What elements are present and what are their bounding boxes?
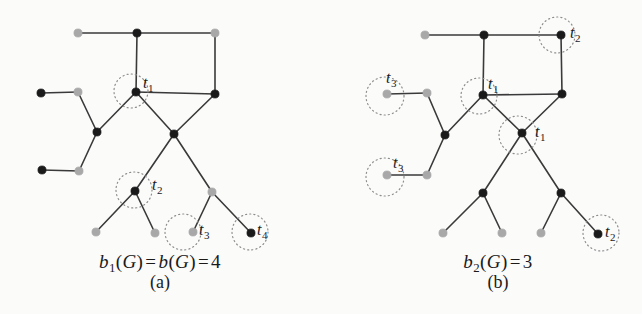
marker-label-sub: 1 [148,82,154,94]
marker-label-b-t3b: t3 [393,154,404,174]
graph-node-b-t3b [383,171,391,179]
graph-node-a-n8 [93,128,101,136]
graph-node-b-n5 [423,89,431,97]
graph-edge [79,132,97,171]
graph-edge [41,92,78,93]
panel-a-marker-labels: t1t2t3t4 [143,74,268,241]
graph-edge [135,191,155,233]
graph-edge [97,92,136,132]
marker-label-sub: 2 [575,32,581,44]
panel-b-edges [387,35,598,234]
graph-node-a-n13 [208,188,216,196]
graph-node-b-n14 [439,229,447,237]
graph-node-b-n15 [498,229,506,237]
marker-label-sub: 2 [157,184,163,196]
graph-edge [174,94,215,134]
panel-a-edges [41,33,251,233]
marker-label-a-t3: t3 [199,221,210,241]
graph-edge [136,92,174,134]
panel-a-nodes [37,29,255,237]
graph-edge [483,133,522,193]
graph-node-a-n10 [38,166,46,174]
graph-edge [212,192,251,233]
graph-edge [561,35,562,94]
marker-label-sub: 3 [391,77,397,89]
graph-node-b-n8 [441,131,449,139]
graph-edge [561,193,598,234]
graph-node-b-n1 [421,31,429,39]
marker-label-a-t4: t4 [257,221,268,241]
graph-edge [483,193,502,233]
graph-edge [96,191,135,232]
marker-label-b-t2a: t2 [570,24,580,44]
panel-b-nodes [383,31,602,238]
graph-node-a-t2 [131,187,139,195]
panel-b-marker-labels: t2t3t1t1t3t2 [386,24,615,243]
graph-edge [136,33,137,92]
graph-node-b-n7 [558,90,566,98]
panel-a-group: t1t2t3t4 [37,29,268,250]
graph-node-b-n2 [480,31,488,39]
graph-node-a-n7 [211,90,219,98]
marker-label-a-t2: t2 [152,176,162,196]
marker-label-sub: 4 [262,229,268,241]
marker-label-a-t1: t1 [143,74,153,94]
graph-edge [443,193,483,233]
panel-b-group: t2t3t1t1t3t2 [366,17,619,251]
graph-node-a-n4 [37,89,45,97]
graph-edge [387,93,427,94]
graph-edge [483,35,484,95]
marker-label-b-t1b: t1 [535,123,545,143]
graph-node-a-n3 [211,29,219,37]
graph-edge [541,193,561,233]
marker-label-sub: 2 [610,231,616,243]
marker-label-b-t1a: t1 [488,75,498,95]
graph-edge [42,170,79,171]
graph-edge [427,135,445,175]
graph-node-a-t1 [132,88,140,96]
marker-label-sub: 3 [204,229,210,241]
graph-node-b-n11 [423,171,431,179]
graph-node-a-n11 [75,167,83,175]
graph-node-a-t3 [189,228,197,236]
marker-label-sub: 1 [540,131,546,143]
panel-a-markers [114,74,268,250]
marker-label-sub: 3 [398,162,404,174]
graph-node-b-t2b [594,230,602,238]
graph-node-a-t4 [247,229,255,237]
marker-label-sub: 1 [493,83,499,95]
figure-container: t1t2t3t4t2t3t1t1t3t2 b1(G)=b(G)=4 (a) b2… [0,0,642,314]
graph-node-b-n16 [537,229,545,237]
graph-edge [445,95,483,135]
graph-edge [483,95,522,133]
graph-node-b-t3a [383,90,391,98]
graph-node-b-t1a [479,91,487,99]
graph-edge [78,92,97,132]
graph-node-a-n14 [92,228,100,236]
graph-node-b-t1b [518,129,526,137]
graph-node-b-t2a [557,31,565,39]
graph-node-b-n12 [479,189,487,197]
graph-node-a-n2 [133,29,141,37]
graph-figure-canvas: t1t2t3t4t2t3t1t1t3t2 [0,0,642,314]
graph-edge [427,93,445,135]
graph-node-a-n1 [74,29,82,37]
graph-node-a-n5 [74,88,82,96]
marker-label-b-t2b: t2 [605,223,615,243]
graph-node-a-n15 [151,229,159,237]
graph-edge [522,94,562,133]
graph-node-b-n13 [557,189,565,197]
graph-node-a-n9 [170,130,178,138]
graph-edge [174,134,212,192]
marker-label-b-t3a: t3 [386,69,397,89]
